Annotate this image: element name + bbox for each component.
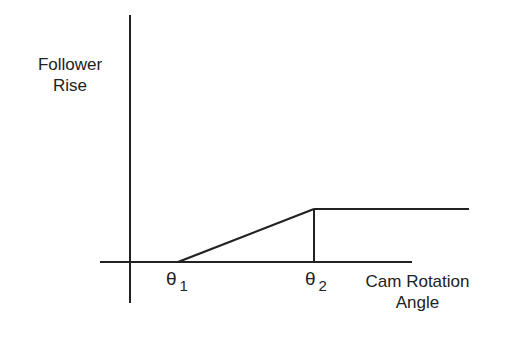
x-axis-label: Cam Rotation Angle <box>345 271 490 313</box>
rise-ramp <box>178 209 314 262</box>
y-label-line1: Follower <box>20 54 120 75</box>
cam-follower-diagram: Follower Rise θ1 θ2 Cam Rotation Angle <box>0 0 518 341</box>
y-label-line2: Rise <box>20 75 120 96</box>
theta2-label: θ2 <box>305 268 327 294</box>
x-label-line2: Angle <box>345 292 490 313</box>
y-axis-label: Follower Rise <box>20 54 120 96</box>
x-label-line1: Cam Rotation <box>345 271 490 292</box>
theta1-label: θ1 <box>166 268 188 294</box>
